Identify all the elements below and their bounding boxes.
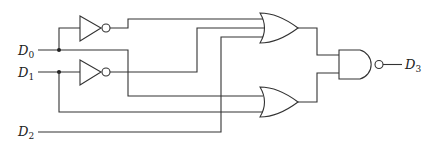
or-gate-2 xyxy=(260,87,298,117)
junction-d0 xyxy=(57,48,61,52)
wire-not2-to-or1 xyxy=(110,28,266,72)
not-gate-1 xyxy=(80,16,101,41)
logic-circuit-diagram: D0 D1 D2 D3 xyxy=(0,0,433,142)
nand-gate xyxy=(339,50,371,79)
not-gate-2-bubble xyxy=(102,68,110,76)
not-gate-1-bubble xyxy=(102,24,110,32)
wire-d0-to-not1 xyxy=(59,28,80,50)
nand-gate-bubble xyxy=(375,61,383,69)
input-label-d1: D1 xyxy=(17,65,34,82)
input-label-d2: D2 xyxy=(17,124,34,141)
output-label-d3: D3 xyxy=(404,57,421,74)
wire-d2-to-or1 xyxy=(38,37,264,132)
wire-or2-to-nand xyxy=(298,73,339,102)
wire-d0 xyxy=(38,50,263,96)
wire-or1-to-nand xyxy=(298,28,339,55)
not-gate-2 xyxy=(80,60,101,85)
wire-not1-to-or1 xyxy=(110,19,264,28)
or-gate-1 xyxy=(260,13,298,43)
input-label-d0: D0 xyxy=(17,43,34,60)
